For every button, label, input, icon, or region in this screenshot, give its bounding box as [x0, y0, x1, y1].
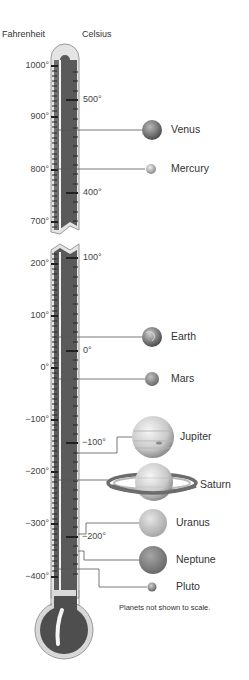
f-label-minus-100: −100° [25, 414, 49, 424]
f-label-900: 900° [30, 111, 49, 121]
planet-label-mercury: Mercury [171, 162, 209, 174]
leader-neptune [78, 551, 140, 560]
f-label-800: 800° [30, 164, 49, 174]
planet-label-earth: Earth [171, 330, 196, 342]
planet-label-pluto: Pluto [176, 580, 200, 592]
lower-tube [51, 244, 79, 600]
planet-mercury-icon [146, 164, 156, 174]
c-label-0: 0° [83, 345, 92, 355]
planet-venus-icon [142, 120, 162, 140]
planet-label-uranus: Uranus [176, 516, 210, 528]
planet-mars-icon [145, 372, 159, 386]
planet-label-jupiter: Jupiter [180, 430, 212, 442]
c-label-500: 500° [83, 94, 102, 104]
f-label-0: 0° [40, 362, 49, 372]
planet-neptune-icon [139, 546, 167, 574]
c-label-400: 400° [83, 187, 102, 197]
planet-earth-icon [142, 327, 162, 347]
f-label-1000: 1000° [25, 60, 49, 70]
f-label-minus-200: −200° [25, 466, 49, 476]
planet-label-neptune: Neptune [176, 553, 216, 565]
planet-jupiter-icon [132, 416, 174, 458]
f-label-minus-400: −400° [25, 571, 49, 581]
scale-note: Planets not shown to scale. [119, 603, 210, 612]
planet-uranus-icon [139, 509, 167, 537]
f-label-700: 700° [30, 216, 49, 226]
planet-label-saturn: Saturn [200, 478, 231, 490]
planet-label-venus: Venus [171, 123, 200, 135]
f-label-minus-300: −300° [25, 518, 49, 528]
planet-pluto-icon [148, 583, 157, 592]
f-label-200: 200° [30, 258, 49, 268]
thermometer-bulb [35, 590, 93, 659]
planet-label-mars: Mars [171, 372, 194, 384]
c-label-100: 100° [83, 252, 102, 262]
c-label-minus-100: −100° [82, 437, 106, 447]
c-label-minus-200: −200° [82, 531, 106, 541]
f-label-100: 100° [30, 310, 49, 320]
planet-saturn-icon [108, 463, 196, 501]
